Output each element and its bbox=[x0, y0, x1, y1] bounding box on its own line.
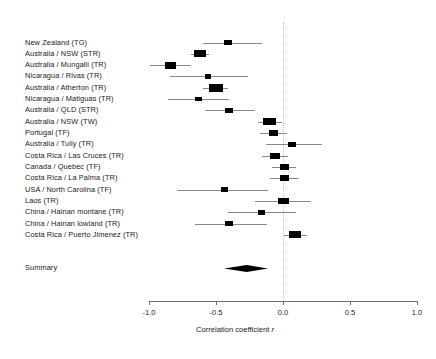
reference-line-zero bbox=[283, 22, 284, 300]
effect-size-marker bbox=[269, 130, 278, 135]
effect-size-marker bbox=[225, 108, 233, 113]
study-label: Costa Rica / La Palma (TR) bbox=[25, 174, 117, 181]
study-label: Nicaragua / Matiguas (TR) bbox=[25, 95, 114, 102]
effect-size-marker bbox=[224, 40, 232, 45]
effect-size-marker bbox=[289, 231, 301, 238]
effect-size-marker bbox=[278, 198, 289, 205]
study-label: New Zealand (TG) bbox=[25, 39, 87, 46]
effect-size-marker bbox=[194, 50, 206, 57]
study-label: China / Hainan montane (TR) bbox=[25, 208, 124, 215]
study-label: Australia / Mungalli (TR) bbox=[25, 61, 106, 68]
effect-size-marker bbox=[205, 74, 212, 78]
summary-label: Summary bbox=[25, 264, 57, 271]
x-axis-title-symbol: r bbox=[271, 325, 274, 334]
study-label: Australia / Atherton (TR) bbox=[25, 84, 106, 91]
effect-size-marker bbox=[280, 175, 290, 181]
study-label: Australia / Tully (TR) bbox=[25, 140, 94, 147]
study-label: Costa Rica / Puerto Jimenez (TR) bbox=[25, 231, 138, 238]
x-axis-tick-label: -1.0 bbox=[142, 309, 155, 317]
study-label: China / Hainan lowland (TR) bbox=[25, 220, 120, 227]
x-axis-tick bbox=[283, 301, 284, 305]
x-axis-tick bbox=[350, 301, 351, 305]
study-label: Costa Rica / Las Cruces (TR) bbox=[25, 152, 124, 159]
study-label: Australia / NSW (STR) bbox=[25, 50, 101, 57]
x-axis-tick bbox=[149, 301, 150, 305]
summary-diamond bbox=[224, 265, 268, 272]
effect-size-marker bbox=[263, 118, 276, 125]
study-label: USA / North Carolina (TF) bbox=[25, 186, 112, 193]
effect-size-marker bbox=[221, 187, 228, 192]
study-label: Laos (TR) bbox=[25, 197, 59, 204]
study-label: Canada / Quebec (TF) bbox=[25, 163, 101, 170]
effect-size-marker bbox=[288, 142, 296, 147]
confidence-interval-line bbox=[203, 43, 262, 44]
effect-size-marker bbox=[225, 221, 233, 226]
study-label: Australia / NSW (TW) bbox=[25, 118, 97, 125]
x-axis-tick-label: 0.0 bbox=[278, 309, 289, 317]
study-label: Nicaragua / Rivas (TR) bbox=[25, 72, 102, 79]
forest-plot: New Zealand (TG)Australia / NSW (STR)Aus… bbox=[0, 0, 436, 359]
x-axis-tick-label: 0.5 bbox=[345, 309, 356, 317]
x-axis-title: Correlation coefficient r bbox=[196, 326, 274, 334]
effect-size-marker bbox=[280, 164, 289, 169]
x-axis-tick-label: -0.5 bbox=[209, 309, 222, 317]
effect-size-marker bbox=[195, 97, 202, 102]
x-axis-tick bbox=[417, 301, 418, 305]
x-axis-tick bbox=[216, 301, 217, 305]
study-label: Australia / QLD (STR) bbox=[25, 106, 99, 113]
effect-size-marker bbox=[270, 153, 280, 159]
x-axis-title-text: Correlation coefficient bbox=[196, 325, 271, 334]
study-label: Portugal (TF) bbox=[25, 129, 70, 136]
effect-size-marker bbox=[209, 84, 223, 92]
effect-size-marker bbox=[258, 210, 266, 215]
effect-size-marker bbox=[165, 62, 177, 69]
x-axis-tick-label: 1.0 bbox=[412, 309, 423, 317]
